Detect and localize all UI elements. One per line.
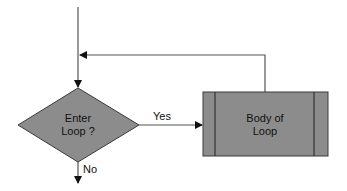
process-label-line2: Loop bbox=[230, 125, 300, 138]
decision-label: Enter Loop ? bbox=[48, 112, 108, 138]
decision-label-line2: Loop ? bbox=[48, 125, 108, 138]
process-label-line1: Body of bbox=[230, 112, 300, 125]
yes-label: Yes bbox=[153, 110, 171, 123]
loop-back-arrow bbox=[80, 55, 265, 92]
no-label: No bbox=[83, 163, 97, 176]
flowchart-canvas bbox=[0, 0, 347, 191]
decision-label-line1: Enter bbox=[48, 112, 108, 125]
process-label: Body of Loop bbox=[230, 112, 300, 138]
